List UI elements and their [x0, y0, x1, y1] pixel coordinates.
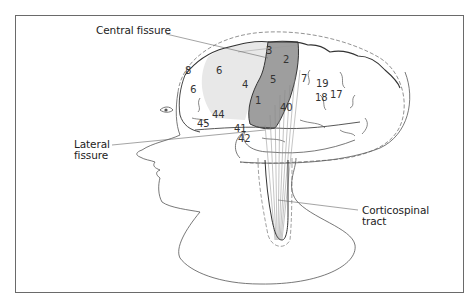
area-7: 7: [301, 74, 307, 84]
area-1: 1: [255, 96, 261, 106]
neck-outline: [179, 158, 355, 284]
temporal-lobe: [244, 132, 355, 153]
area-6: 6: [216, 66, 222, 76]
area-18: 18: [315, 93, 328, 103]
area-5: 5: [270, 75, 276, 85]
area-2: 2: [283, 55, 289, 65]
area-3: 3: [266, 46, 272, 56]
area-8: 8: [185, 66, 191, 76]
area-19: 19: [316, 79, 329, 89]
lateral-fissure-label-line2: fissure: [74, 150, 110, 161]
area-40: 40: [280, 103, 293, 113]
face-profile: [137, 135, 200, 212]
corticospinal-tract-label: Corticospinal tract: [362, 205, 429, 227]
area-17: 17: [330, 90, 343, 100]
brain-diagram: [0, 0, 475, 307]
lateral-fissure-label: Lateral fissure: [74, 139, 110, 161]
central-fissure-label: Central fissure: [96, 25, 171, 36]
corticospinal-label-line2: tract: [362, 216, 429, 227]
area-9: 9: [190, 83, 196, 93]
area-45: 45: [197, 119, 210, 129]
area-44: 44: [212, 110, 225, 120]
area-42: 42: [238, 134, 251, 144]
area-4: 4: [242, 80, 248, 90]
corticospinal-leader: [278, 200, 358, 210]
